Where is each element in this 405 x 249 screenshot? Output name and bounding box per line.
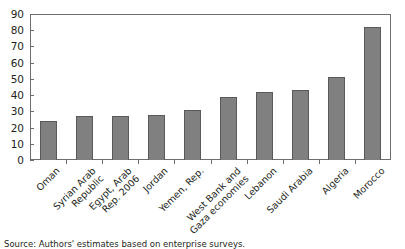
- y-axis-tick-label: 10: [11, 136, 24, 152]
- y-axis-tick-label: 60: [11, 55, 24, 71]
- bar: [112, 116, 129, 160]
- x-axis-labels: OmanSyrian Arab RepublicEgypt, Arab Rep.…: [30, 165, 405, 235]
- bar: [292, 90, 309, 160]
- x-axis-tick-mark: [174, 160, 175, 164]
- y-axis-tick-label: 20: [11, 120, 24, 136]
- x-axis-tick-mark: [283, 160, 284, 164]
- y-axis-tick-label: 80: [11, 22, 24, 38]
- bar: [256, 92, 273, 160]
- y-axis-tick-label: 30: [11, 103, 24, 119]
- x-axis-tick-label: Algeria: [319, 165, 350, 196]
- y-axis-tick-label: 70: [11, 38, 24, 54]
- x-axis-tick-mark: [319, 160, 320, 164]
- bars-layer: [30, 14, 391, 160]
- x-axis-tick-mark: [138, 160, 139, 164]
- x-axis-tick-label: Oman: [34, 165, 62, 193]
- bar: [364, 27, 381, 160]
- x-axis-tick-mark: [247, 160, 248, 164]
- y-axis-tick-label: 90: [11, 6, 24, 22]
- x-axis-tick-label: Jordan: [141, 165, 170, 194]
- bar: [40, 121, 57, 160]
- bar: [184, 110, 201, 160]
- x-axis-tick-label: Morocco: [351, 165, 387, 201]
- y-axis: 0102030405060708090: [0, 6, 30, 168]
- source-note: Source: Authors' estimates based on ente…: [4, 239, 245, 249]
- bar: [328, 77, 345, 160]
- bar: [220, 97, 237, 160]
- x-axis-tick-mark: [355, 160, 356, 164]
- y-axis-tick-label: 0: [17, 152, 24, 168]
- bar: [148, 115, 165, 160]
- x-axis-tick-mark: [211, 160, 212, 164]
- y-axis-tick-label: 50: [11, 71, 24, 87]
- x-axis-tick-mark: [102, 160, 103, 164]
- x-axis-tick-mark: [66, 160, 67, 164]
- y-axis-tick-label: 40: [11, 87, 24, 103]
- bar: [76, 116, 93, 160]
